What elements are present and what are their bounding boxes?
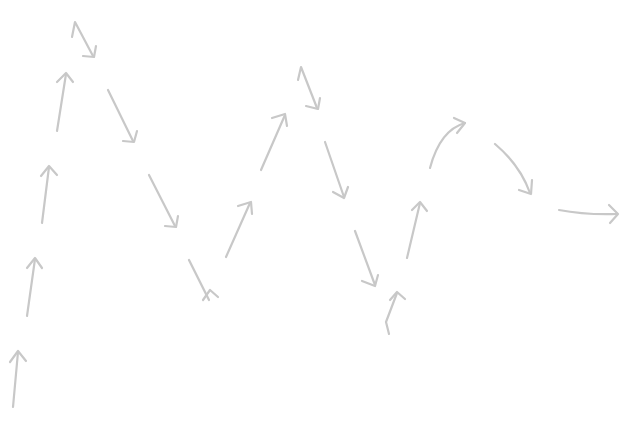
arrow-shaft (72, 22, 93, 56)
arrow-up-icon (57, 73, 73, 131)
arrow-down-right-icon (149, 175, 178, 227)
arrow-up-right-icon (261, 114, 287, 170)
arrow-down-right-icon (189, 260, 218, 300)
arrow-down-icon (355, 231, 378, 286)
arrowhead (362, 275, 378, 286)
arrow-shaft (559, 210, 617, 214)
arrowhead (390, 292, 405, 300)
arrow-shaft (108, 90, 133, 141)
arrow-up-icon (41, 166, 57, 223)
arrow-shaft (42, 167, 49, 223)
arrow-shaft (407, 203, 420, 258)
arrow-up-icon (10, 351, 26, 407)
arrow-up-icon (407, 202, 427, 258)
arrow-up-icon (386, 292, 405, 334)
arrow-down-icon (325, 142, 348, 198)
arrow-up-right-icon (430, 118, 465, 168)
arrow-down-right-icon (72, 22, 96, 57)
arrow-diagram-canvas (0, 0, 639, 425)
arrow-shaft (325, 142, 344, 197)
arrow-shaft (355, 231, 375, 285)
arrow-shaft (149, 175, 175, 226)
arrow-shaft (261, 115, 285, 170)
arrow-down-right-icon (495, 144, 532, 194)
arrow-down-right-icon (108, 90, 137, 142)
arrowhead (272, 114, 287, 126)
arrow-up-right-icon (226, 202, 252, 257)
arrow-group (10, 22, 618, 407)
arrow-shaft (57, 74, 66, 131)
arrow-down-right-icon (298, 67, 320, 109)
arrow-shaft (298, 67, 317, 108)
arrow-shaft (226, 203, 250, 257)
arrow-up-icon (27, 258, 42, 316)
arrow-shaft (13, 352, 18, 407)
arrow-shaft (495, 144, 530, 193)
arrow-right-icon (559, 205, 618, 223)
